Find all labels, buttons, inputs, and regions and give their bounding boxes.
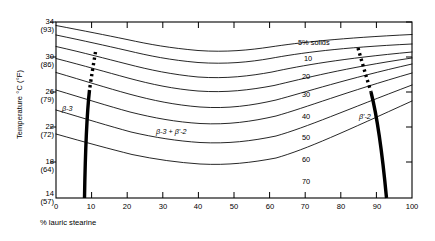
curve-70 — [56, 101, 412, 164]
curve-60 — [56, 85, 412, 143]
beta-prime-2-boundary-solid — [371, 92, 387, 198]
phase-diagram-figure: Temperature °C (°F) 34(93) 30(86) 26(79)… — [0, 0, 435, 241]
right-axis-ticks — [406, 22, 412, 162]
beta-prime-2-boundary-dotted — [358, 48, 371, 92]
curve-50 — [56, 73, 412, 124]
curve-40 — [56, 64, 412, 108]
plot-area-svg — [0, 0, 435, 241]
beta-3-phase-boundary — [85, 52, 96, 198]
beta-prime-2-phase-boundary — [358, 48, 387, 198]
bottom-axis-ticks — [92, 192, 377, 198]
iso-solid-curves — [56, 26, 412, 165]
beta-3-boundary-solid — [85, 90, 90, 198]
left-axis-ticks — [50, 22, 56, 162]
top-axis-ticks — [92, 22, 377, 28]
